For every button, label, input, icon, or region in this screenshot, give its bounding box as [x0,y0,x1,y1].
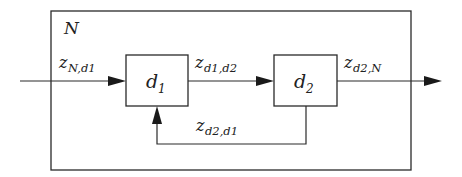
svg-text:z: z [194,53,204,72]
feedback-signal-label: z d2,d1 [195,116,238,138]
svg-text:d2,N: d2,N [353,61,382,75]
svg-text:2: 2 [305,82,314,96]
output-signal-label: z d2,N [343,53,382,75]
container-n-box [51,11,411,170]
container-label: N [63,18,80,38]
arrowhead-icon [256,76,274,86]
arrowhead-icon [424,76,442,86]
svg-text:d: d [146,70,158,92]
block-diagram: N z N,d1 d 1 z d1,d2 d 2 z d2,N z d2,d1 [0,0,462,177]
arrowhead-icon [152,106,162,124]
svg-text:N,d1: N,d1 [67,61,96,75]
svg-text:1: 1 [158,82,166,96]
svg-text:z: z [195,116,205,135]
input-signal-label: z N,d1 [58,53,96,75]
d1-to-d2-signal-label: z d1,d2 [194,53,237,75]
svg-text:z: z [58,53,68,72]
svg-text:d: d [294,70,306,92]
arrowhead-icon [108,76,126,86]
svg-text:d1,d2: d1,d2 [204,61,237,75]
svg-text:d2,d1: d2,d1 [205,124,238,138]
svg-text:z: z [343,53,353,72]
